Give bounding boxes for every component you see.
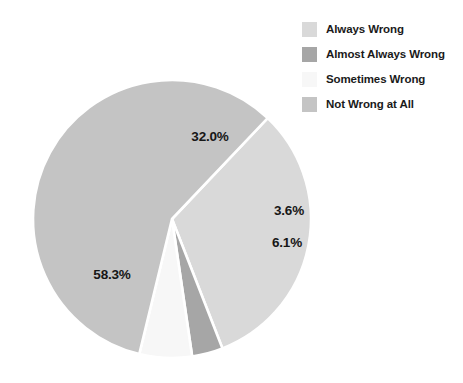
legend-swatch-icon	[302, 72, 317, 87]
legend-swatch-icon	[302, 97, 317, 112]
legend-item[interactable]: Almost Always Wrong	[302, 42, 460, 67]
legend-item-label: Almost Always Wrong	[326, 49, 445, 61]
pie-chart: 32.0%3.6%6.1%58.3% Always WrongAlmost Al…	[0, 0, 463, 383]
legend-item[interactable]: Always Wrong	[302, 17, 460, 42]
legend-item-label: Sometimes Wrong	[326, 74, 425, 86]
legend-item[interactable]: Sometimes Wrong	[302, 67, 460, 92]
legend-item-label: Always Wrong	[326, 24, 404, 36]
legend-item[interactable]: Not Wrong at All	[302, 92, 460, 117]
legend-swatch-icon	[302, 47, 317, 62]
legend-swatch-icon	[302, 22, 317, 37]
pie-slice-group	[33, 80, 311, 358]
legend-item-label: Not Wrong at All	[326, 99, 414, 111]
chart-legend: Always WrongAlmost Always WrongSometimes…	[302, 17, 460, 117]
